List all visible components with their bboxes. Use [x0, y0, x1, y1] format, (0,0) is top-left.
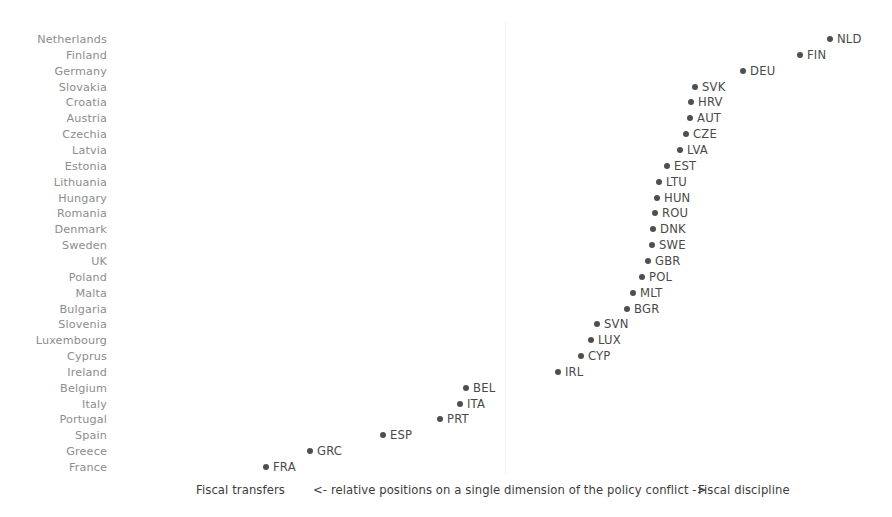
data-point-label: SVN: [604, 317, 629, 331]
y-axis-category-label: Ireland: [67, 366, 107, 379]
data-point-label: LUX: [598, 333, 621, 347]
data-point-label: GBR: [655, 254, 681, 268]
data-point[interactable]: [664, 163, 670, 169]
data-point[interactable]: [588, 337, 594, 343]
y-axis-category-label: Netherlands: [37, 33, 107, 46]
axis-caption-right: Fiscal discipline: [698, 483, 790, 497]
data-point[interactable]: [639, 274, 645, 280]
data-point[interactable]: [652, 210, 658, 216]
y-axis-category-label: France: [69, 461, 107, 474]
data-point-label: HRV: [698, 95, 723, 109]
scatter-plot-area: NetherlandsNLDFinlandFINGermanyDEUSlovak…: [0, 0, 892, 517]
data-point[interactable]: [578, 353, 584, 359]
data-point[interactable]: [683, 131, 689, 137]
data-point-label: MLT: [640, 286, 663, 300]
data-point[interactable]: [555, 369, 561, 375]
y-axis-category-label: Finland: [66, 49, 107, 62]
data-point[interactable]: [687, 115, 693, 121]
data-point[interactable]: [645, 258, 651, 264]
data-point[interactable]: [649, 242, 655, 248]
data-point[interactable]: [263, 464, 269, 470]
data-point-label: PRT: [447, 412, 469, 426]
y-axis-category-label: Slovenia: [58, 318, 107, 331]
gridline-vertical-0: [505, 22, 506, 474]
data-point-label: ITA: [467, 397, 485, 411]
y-axis-category-label: Malta: [75, 287, 107, 300]
y-axis-category-label: Luxembourg: [36, 334, 107, 347]
data-point[interactable]: [827, 36, 833, 42]
y-axis-category-label: Portugal: [59, 413, 107, 426]
data-point[interactable]: [797, 52, 803, 58]
y-axis-category-label: Denmark: [55, 223, 107, 236]
data-point-label: SWE: [659, 238, 686, 252]
data-point[interactable]: [630, 290, 636, 296]
chart-root: NetherlandsNLDFinlandFINGermanyDEUSlovak…: [0, 0, 892, 517]
data-point[interactable]: [463, 385, 469, 391]
y-axis-category-label: Spain: [75, 429, 107, 442]
data-point[interactable]: [437, 416, 443, 422]
data-point-label: FIN: [807, 48, 826, 62]
data-point-label: GRC: [317, 444, 342, 458]
data-point[interactable]: [650, 226, 656, 232]
data-point[interactable]: [740, 68, 746, 74]
y-axis-category-label: Estonia: [65, 160, 107, 173]
y-axis-category-label: Cyprus: [67, 350, 107, 363]
data-point-label: ROU: [662, 206, 688, 220]
y-axis-category-label: Poland: [69, 271, 107, 284]
data-point-label: SVK: [702, 80, 726, 94]
data-point-label: CZE: [693, 127, 717, 141]
data-point[interactable]: [457, 401, 463, 407]
data-point[interactable]: [654, 195, 660, 201]
data-point-label: NLD: [837, 32, 862, 46]
y-axis-category-label: Slovakia: [59, 81, 107, 94]
data-point[interactable]: [692, 84, 698, 90]
data-point-label: IRL: [565, 365, 584, 379]
y-axis-category-label: Hungary: [58, 192, 107, 205]
data-point[interactable]: [677, 147, 683, 153]
y-axis-category-label: Belgium: [60, 382, 107, 395]
data-point[interactable]: [594, 321, 600, 327]
data-point-label: EST: [674, 159, 696, 173]
data-point[interactable]: [624, 306, 630, 312]
y-axis-category-label: Czechia: [62, 128, 107, 141]
data-point-label: ESP: [390, 428, 412, 442]
y-axis-category-label: Croatia: [66, 96, 107, 109]
data-point-label: DNK: [660, 222, 686, 236]
data-point-label: AUT: [697, 111, 721, 125]
data-point-label: HUN: [664, 191, 690, 205]
data-point[interactable]: [307, 448, 313, 454]
data-point-label: DEU: [750, 64, 775, 78]
y-axis-category-label: Sweden: [62, 239, 107, 252]
data-point-label: LVA: [687, 143, 708, 157]
y-axis-category-label: Greece: [66, 445, 107, 458]
data-point-label: BEL: [473, 381, 495, 395]
data-point-label: FRA: [273, 460, 296, 474]
data-point[interactable]: [688, 99, 694, 105]
y-axis-category-label: Austria: [66, 112, 107, 125]
y-axis-category-label: Romania: [57, 207, 107, 220]
data-point-label: LTU: [666, 175, 687, 189]
data-point[interactable]: [380, 432, 386, 438]
y-axis-category-label: Lithuania: [54, 176, 107, 189]
y-axis-category-label: Germany: [55, 65, 107, 78]
data-point[interactable]: [656, 179, 662, 185]
y-axis-category-label: Bulgaria: [59, 303, 107, 316]
data-point-label: POL: [649, 270, 672, 284]
y-axis-category-label: UK: [91, 255, 107, 268]
y-axis-category-label: Latvia: [72, 144, 107, 157]
y-axis-category-label: Italy: [82, 398, 107, 411]
axis-caption-center: <- relative positions on a single dimens…: [313, 483, 706, 497]
data-point-label: CYP: [588, 349, 611, 363]
axis-caption-left: Fiscal transfers: [196, 483, 285, 497]
data-point-label: BGR: [634, 302, 659, 316]
